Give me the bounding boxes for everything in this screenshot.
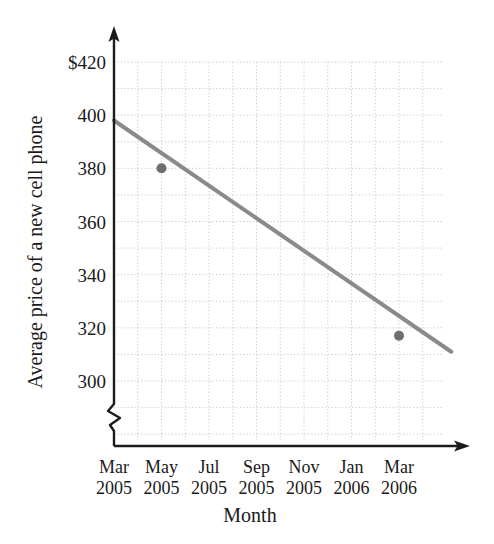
y-axis-tick-label: 360 [78,212,107,233]
x-axis-tick-labels: Mar2005May2005Jul2005Sep2005Nov2005Jan20… [96,457,417,498]
x-axis-title: Month [223,504,276,526]
x-axis-tick-year: 2005 [286,478,322,498]
y-axis-title: Average price of a new cell phone [24,115,47,388]
x-axis-tick-month: Mar [384,457,414,477]
y-axis-tick-label: 400 [78,105,107,126]
data-series-group [114,120,451,351]
x-axis-tick-month: Jan [340,457,364,477]
x-axis-tick-year: 2005 [239,478,275,498]
x-axis-tick-month: Sep [243,457,270,477]
x-axis-tick-month: Nov [289,457,320,477]
data-point-marker [394,331,404,341]
chart-container: $420400380360340320300 Mar2005May2005Jul… [0,0,494,544]
x-axis-tick-year: 2006 [381,478,417,498]
x-axis-tick-year: 2005 [144,478,180,498]
y-axis-tick-label: $420 [68,52,106,73]
grid-horizontal-lines [114,62,443,434]
x-axis-tick-year: 2005 [191,478,227,498]
y-axis-tick-label: 320 [78,318,107,339]
y-axis-tick-label: 380 [78,158,107,179]
trend-line [114,120,451,351]
x-axis-tick-year: 2005 [96,478,132,498]
y-axis-tick-label: 340 [78,265,107,286]
x-axis-tick-month: Jul [198,457,219,477]
grid-vertical-lines [138,62,423,440]
line-chart: $420400380360340320300 Mar2005May2005Jul… [0,0,494,544]
grid-lines [114,62,443,440]
x-axis-tick-year: 2006 [334,478,370,498]
x-axis-tick-month: May [145,457,178,477]
data-point-marker [157,163,167,173]
x-axis-tick-month: Mar [99,457,129,477]
y-axis-tick-label: 300 [78,371,107,392]
y-axis-tick-labels: $420400380360340320300 [68,52,106,392]
